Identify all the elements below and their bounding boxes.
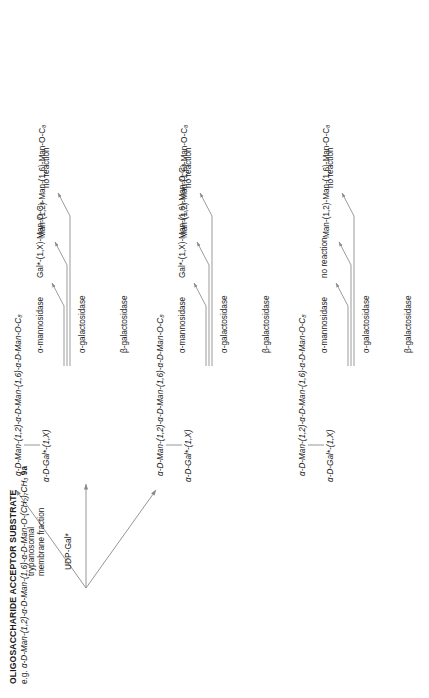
digestion-product-3-1: no reaction (320, 237, 329, 278)
branch-attachment-2: α-D-Gal*-(1,X) (184, 430, 193, 482)
digestion-product-2-3: no reaction (184, 147, 193, 188)
subtitle-prefix: e.g. (20, 668, 29, 684)
enzyme-label-1-3: β-galactosidase (120, 295, 129, 353)
reagent-label: UDP-Gal* (63, 533, 73, 570)
digestion-fan-1 (52, 193, 70, 366)
digestion-fan-3 (336, 193, 354, 366)
conditions-line-1: trypanosomal (27, 508, 37, 576)
digestion-product-3-3: no reaction (326, 147, 335, 188)
enzyme-label-3-1: α-mannosidase (320, 297, 329, 353)
enzyme-label-1-1: α-mannosidase (36, 297, 45, 353)
digestion-fan-2 (194, 193, 212, 366)
enzyme-label-2-3: β-galactosidase (262, 295, 271, 353)
branch-attachment-1: α-D-Gal*-(1,X) (42, 430, 51, 482)
title-block: OLIGOSACCHARIDE ACCEPTOR SUBSTRATE e.g. … (8, 466, 29, 684)
enzyme-label-2-1: α-mannosidase (178, 297, 187, 353)
branch-attachment-3: α-D-Gal*-(1,X) (326, 430, 335, 482)
branch-product-structure-3: α-D-Man-(1,2)-α-D-Man-(1,6)-α-D-Man-O-C₈ (298, 314, 307, 476)
enzyme-label-1-2: α-galactosidase (78, 295, 87, 353)
enzyme-label-3-3: β-galactosidase (404, 295, 413, 353)
enzyme-label-3-2: α-galactosidase (362, 295, 371, 353)
page-title: OLIGOSACCHARIDE ACCEPTOR SUBSTRATE (8, 466, 18, 684)
reaction-conditions: trypanosomal membrane fraction (27, 508, 48, 576)
enzyme-label-2-2: α-galactosidase (220, 295, 229, 353)
branch-arrow-down (86, 490, 156, 588)
branch-product-structure-2: α-D-Man-(1,2)-α-D-Man-(1,6)-α-D-Man-O-C₈ (156, 314, 165, 476)
digestion-product-1-3: no reaction (42, 147, 51, 188)
reaction-scheme-figure: OLIGOSACCHARIDE ACCEPTOR SUBSTRATE e.g. … (0, 0, 429, 698)
conditions-line-2: membrane fraction (37, 508, 47, 576)
branch-product-structure-1: α-D-Man-(1,2)-α-D-Man-(1,6)-α-D-Man-O-C₈ (14, 314, 23, 476)
